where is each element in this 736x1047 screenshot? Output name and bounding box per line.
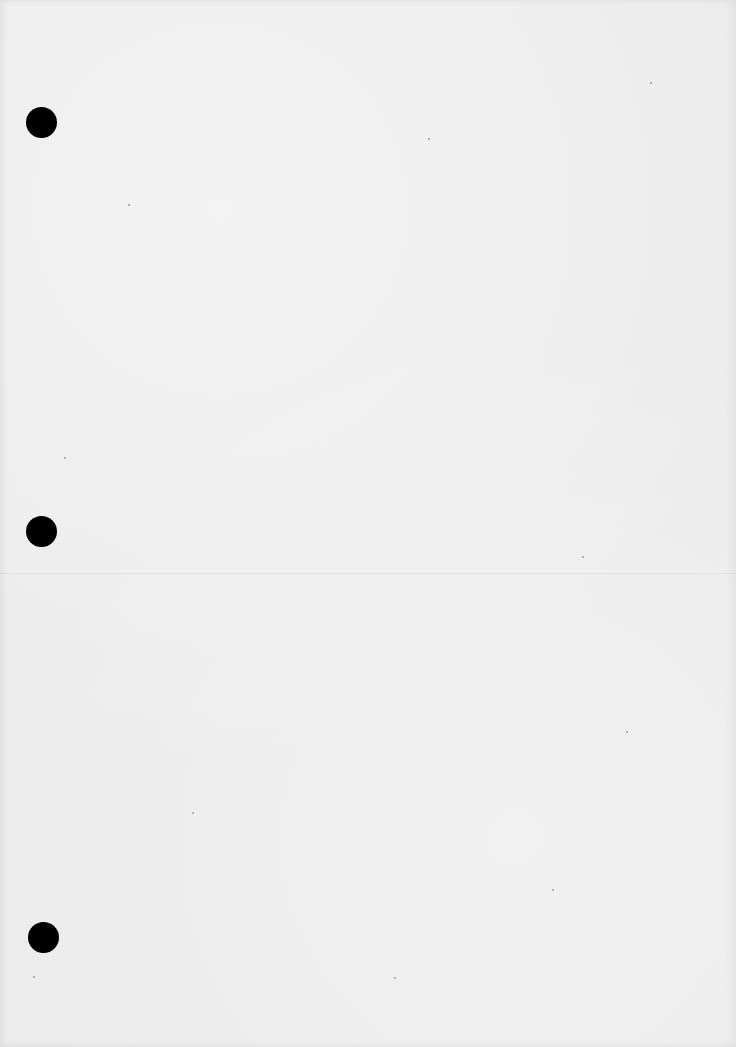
fold-crease: [0, 573, 736, 574]
dust-speck: [428, 138, 430, 140]
dust-speck: [626, 731, 628, 733]
punch-hole-top: [26, 107, 57, 138]
dust-speck: [582, 556, 584, 558]
punch-hole-middle: [26, 516, 57, 547]
dust-speck: [394, 977, 396, 979]
dust-speck: [192, 812, 194, 814]
dust-speck: [128, 204, 130, 206]
scanned-page: [0, 0, 736, 1047]
dust-speck: [33, 976, 35, 978]
punch-hole-bottom: [28, 922, 59, 953]
dust-speck: [64, 457, 66, 459]
dust-speck: [552, 889, 554, 891]
dust-speck: [650, 82, 652, 84]
